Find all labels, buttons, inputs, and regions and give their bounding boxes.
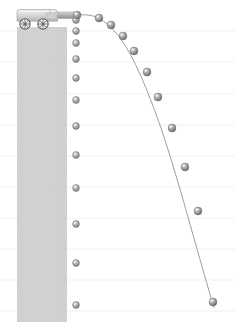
support-column	[17, 27, 67, 322]
support-column-texture	[17, 27, 67, 322]
free-fall-ball-column	[73, 17, 80, 309]
trajectory-ball-10	[209, 298, 217, 306]
free-fall-ball-6	[73, 123, 80, 130]
free-fall-ball-11	[73, 302, 80, 309]
scene-canvas	[0, 0, 235, 330]
free-fall-ball-4	[73, 75, 80, 82]
trajectory-ball-0	[73, 11, 81, 19]
trajectory-ball-6	[154, 93, 162, 101]
trajectory-path	[77, 15, 214, 308]
trajectory-ball-3	[119, 32, 127, 40]
trajectory-ball-1	[95, 14, 103, 22]
launcher-cart[interactable]	[17, 10, 77, 30]
free-fall-ball-7	[73, 152, 80, 159]
trajectory-ball-series	[73, 11, 217, 306]
physics-projectile-figure	[0, 0, 235, 330]
free-fall-ball-10	[73, 260, 80, 267]
trajectory-ball-5	[143, 68, 151, 76]
free-fall-ball-2	[73, 40, 80, 47]
free-fall-ball-5	[73, 97, 80, 104]
trajectory-ball-9	[194, 207, 202, 215]
free-fall-ball-9	[73, 221, 80, 228]
free-fall-ball-1	[73, 28, 80, 35]
rear-wheel	[20, 19, 30, 29]
trajectory-ball-2	[107, 21, 115, 29]
trajectory-ball-7	[168, 124, 176, 132]
free-fall-ball-8	[73, 185, 80, 192]
trajectory-ball-4	[130, 47, 138, 55]
front-wheel	[38, 19, 48, 29]
launcher-breech	[46, 13, 56, 19]
trajectory-ball-8	[181, 163, 189, 171]
free-fall-ball-3	[73, 56, 80, 63]
